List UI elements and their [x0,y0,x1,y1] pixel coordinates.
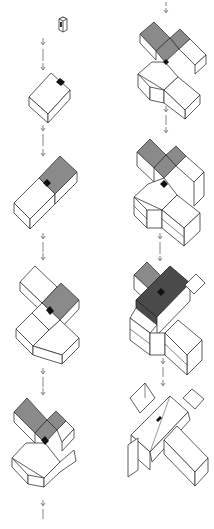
step-2-block [29,73,70,123]
step-3-extended-block [14,156,77,229]
arrow-down-icon [161,358,165,386]
step-7-additional-floors [134,139,204,246]
diagram-canvas [0,0,214,529]
step-1-core [59,17,67,32]
arrow-down-icon [41,368,45,395]
massing-diagram [0,0,214,529]
arrow-down-icon [41,38,45,70]
arrow-down-icon [41,125,45,156]
step-8-dark-highlight [130,262,205,375]
step-5-cross-gray-wings [12,398,76,487]
arrow-down-icon [164,106,168,133]
step-6-stacked-cross [138,22,206,119]
step-9-final-building-roofs [128,383,208,486]
arrow-down-icon [41,233,45,260]
step-4-cross-plan [16,266,79,364]
arrow-down-icon [41,500,45,519]
arrow-down-icon [158,233,162,261]
arrow-down-icon [164,2,168,13]
